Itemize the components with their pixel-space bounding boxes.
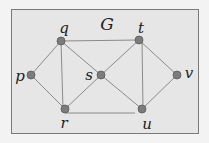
node-s xyxy=(97,71,105,79)
node-r xyxy=(61,105,69,113)
node-label-r: r xyxy=(60,116,67,131)
node-label-q: q xyxy=(59,21,69,36)
node-label-t: t xyxy=(138,21,144,36)
node-label-s: s xyxy=(85,68,93,83)
node-label-u: u xyxy=(142,117,152,132)
graph-diagram: G p q r s t u v xyxy=(0,0,209,143)
node-label-p: p xyxy=(15,69,25,84)
node-p xyxy=(27,71,35,79)
node-t xyxy=(135,36,143,44)
graph-title: G xyxy=(100,16,114,33)
node-label-v: v xyxy=(185,66,193,81)
node-v xyxy=(173,71,181,79)
node-u xyxy=(138,105,146,113)
node-q xyxy=(57,37,65,45)
